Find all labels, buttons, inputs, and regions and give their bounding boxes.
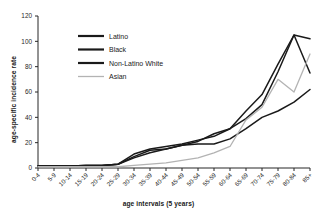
x-tick-label: 15-19 [73, 171, 90, 188]
x-tick-label: 40-44 [153, 171, 170, 188]
x-tick-label: 25-29 [105, 171, 122, 188]
x-tick-label: 80-84 [281, 171, 298, 188]
y-tick-label: 80 [25, 63, 33, 70]
x-tick-label: 85+ [301, 171, 314, 184]
y-tick-label: 40 [25, 114, 33, 121]
x-tick-label: 60-64 [217, 171, 234, 188]
x-axis-title: age intervals (5 years) [0, 200, 317, 207]
legend-label: Asian [109, 73, 127, 80]
series-line-asian [38, 54, 310, 167]
x-tick-label: 30-34 [121, 171, 138, 188]
x-tick-label: 55-59 [201, 171, 218, 188]
chart-container: 0204060801001200-45-910-1415-1920-2425-2… [0, 0, 317, 219]
x-tick-label: 0-4 [30, 171, 42, 183]
x-tick-label: 35-39 [137, 171, 154, 188]
x-tick-label: 5-9 [46, 171, 58, 183]
legend: LatinoBlackNon-Latino WhiteAsian [78, 33, 163, 81]
x-tick-label: 70-74 [249, 171, 266, 188]
x-tick-label: 75-79 [265, 171, 282, 188]
y-tick-label: 120 [21, 12, 32, 19]
legend-label: Non-Latino White [109, 60, 163, 67]
y-axis-title: age-specific incidence rate [10, 35, 17, 165]
y-tick-label: 20 [25, 139, 33, 146]
y-tick-label: 0 [28, 164, 32, 171]
legend-label: Black [109, 46, 127, 53]
x-tick-label: 45-49 [169, 171, 186, 188]
x-tick-label: 10-14 [57, 171, 74, 188]
x-tick-label: 65-69 [233, 171, 250, 188]
x-tick-label: 50-54 [185, 171, 202, 188]
chart-plot: 0204060801001200-45-910-1415-1920-2425-2… [0, 0, 317, 219]
legend-label: Latino [109, 33, 128, 40]
series-line-non-latino-white [38, 35, 310, 166]
y-tick-label: 60 [25, 88, 33, 95]
series-group [38, 35, 310, 167]
series-line-latino [38, 89, 310, 166]
y-tick-label: 100 [21, 38, 32, 45]
axis-group: 0204060801001200-45-910-1415-1920-2425-2… [21, 12, 313, 187]
x-tick-label: 20-24 [89, 171, 106, 188]
